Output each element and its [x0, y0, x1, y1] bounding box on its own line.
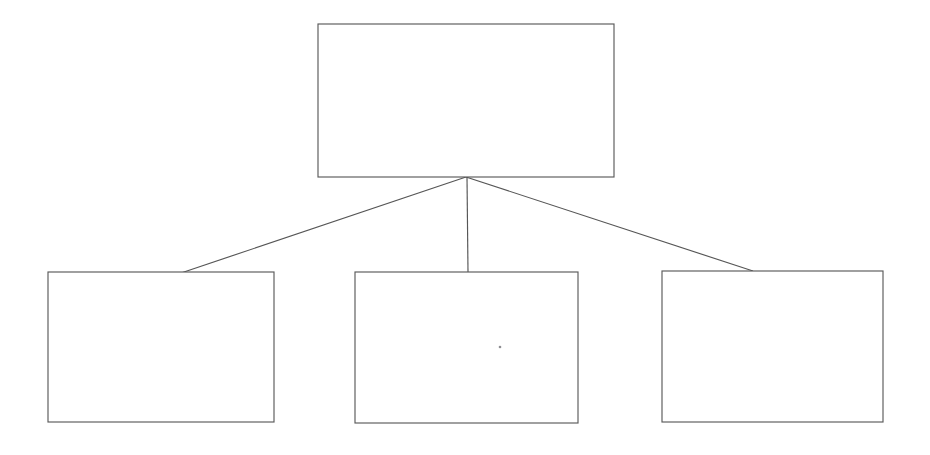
connector-parent-to-child-1 — [181, 177, 466, 273]
hierarchy-diagram — [0, 0, 930, 455]
connector-parent-to-child-2 — [467, 177, 468, 272]
scan-speck-artifact — [499, 346, 502, 349]
diagram-canvas — [0, 0, 930, 455]
node-child-1[interactable] — [48, 272, 274, 422]
node-parent-box[interactable] — [318, 24, 614, 177]
connector-parent-to-child-3 — [466, 177, 753, 271]
node-parent[interactable] — [318, 24, 614, 177]
node-child-1-box[interactable] — [48, 272, 274, 422]
node-child-2[interactable] — [355, 272, 578, 423]
node-child-3-box[interactable] — [662, 271, 883, 422]
node-child-3[interactable] — [662, 271, 883, 422]
connector-group — [181, 177, 753, 273]
node-child-2-box[interactable] — [355, 272, 578, 423]
